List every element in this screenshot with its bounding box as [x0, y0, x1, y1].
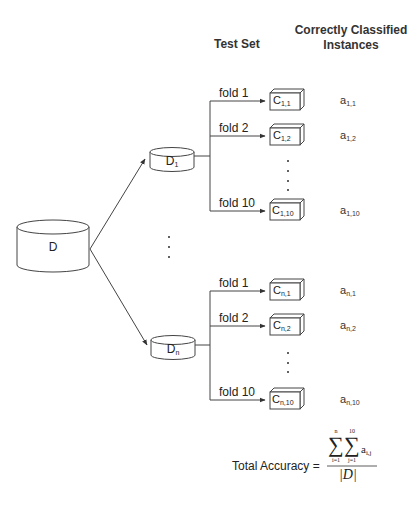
- sum1-sigma: ∑: [328, 434, 344, 456]
- denominator: |D|: [339, 467, 357, 483]
- accuracy-label: an,10: [340, 393, 360, 406]
- sum2-sigma: ∑: [344, 434, 360, 456]
- classifier-label: C1,10: [272, 204, 294, 217]
- header-correct-line1: Correctly Classified: [291, 23, 411, 38]
- header-correct-line2: Instances: [291, 38, 411, 53]
- root-dataset-label: D: [17, 240, 89, 254]
- sum1-lower: i=1: [329, 457, 343, 463]
- header-correctly-classified: Correctly Classified Instances: [291, 23, 411, 53]
- classifier-label: C1,2: [273, 129, 291, 142]
- dataset-dn-label: Dn: [151, 342, 195, 356]
- total-accuracy-label: Total Accuracy =: [232, 459, 320, 473]
- edge-d-to-dn: [90, 249, 147, 345]
- fold-label: fold 2: [219, 121, 248, 135]
- fold-label: fold 10: [219, 385, 255, 399]
- edge-d-to-d1: [90, 159, 145, 249]
- accuracy-label: a1,10: [340, 204, 360, 217]
- fold-label: fold 10: [219, 196, 255, 210]
- classifier-label: Cn,10: [272, 393, 294, 406]
- dn-fold-tree: [195, 291, 265, 400]
- fold-label: fold 1: [219, 276, 248, 290]
- fold-label: fold 1: [219, 86, 248, 100]
- d1-fold-tree: [194, 101, 265, 211]
- accuracy-label: a1,1: [340, 94, 356, 107]
- fold-label: fold 2: [219, 311, 248, 325]
- accuracy-label: a1,2: [340, 129, 356, 142]
- classifier-label: Cn,1: [273, 284, 291, 297]
- header-test-set: Test Set: [214, 37, 260, 52]
- sum-term: ai,j: [361, 443, 372, 457]
- d1-sub: 1: [174, 161, 178, 168]
- dn-sub: n: [175, 349, 179, 356]
- accuracy-label: an,1: [340, 284, 356, 297]
- classifier-label: C1,1: [273, 94, 291, 107]
- classifier-label: Cn,2: [273, 319, 291, 332]
- accuracy-label: an,2: [340, 319, 356, 332]
- sum2-lower: j=1: [345, 457, 359, 463]
- dataset-d1-label: D1: [150, 154, 194, 168]
